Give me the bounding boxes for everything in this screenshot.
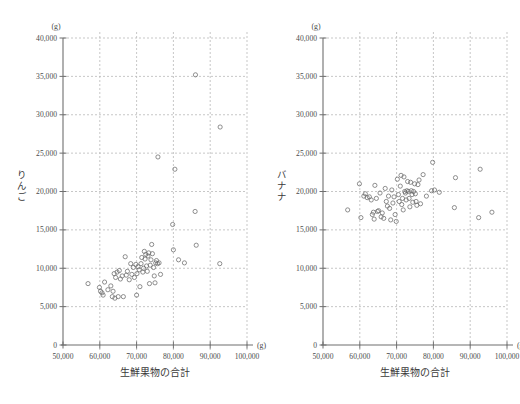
data-points — [86, 73, 222, 301]
data-point — [132, 275, 136, 279]
data-point — [141, 270, 145, 274]
data-point — [408, 205, 412, 209]
x-axis-title: 生鮮果物の合計 — [120, 366, 190, 378]
x-axis-title: 生鮮果物の合計 — [380, 366, 450, 378]
y-tick-label: 30,000 — [296, 110, 317, 119]
data-point — [111, 289, 115, 293]
y-axis-title-char: り — [17, 170, 26, 180]
data-point — [125, 269, 129, 273]
data-point — [408, 180, 412, 184]
data-point — [106, 288, 110, 292]
data-point — [171, 222, 175, 226]
data-point — [383, 186, 387, 190]
data-point — [372, 217, 376, 221]
y-axis-ticks: 05,00010,00015,00020,00025,00030,00035,0… — [36, 34, 66, 350]
x-tick-label: 80,000 — [423, 352, 444, 361]
data-point — [151, 265, 155, 269]
data-point — [373, 183, 377, 187]
y-tick-label: 25,000 — [36, 149, 57, 158]
y-tick-label: 0 — [53, 341, 57, 350]
data-point — [123, 255, 127, 259]
gridlines — [63, 32, 247, 351]
data-point — [477, 216, 481, 220]
data-point — [389, 218, 393, 222]
data-point — [156, 155, 160, 159]
data-point — [109, 284, 113, 288]
y-tick-label: 40,000 — [296, 34, 317, 43]
data-point — [478, 167, 482, 171]
y-tick-label: 35,000 — [296, 72, 317, 81]
data-point — [386, 194, 390, 198]
y-axis-ticks: 05,00010,00015,00020,00025,00030,00035,0… — [296, 34, 326, 350]
data-point — [218, 262, 222, 266]
data-point — [437, 190, 441, 194]
y-tick-label: 5,000 — [40, 302, 57, 311]
chart-panel-apple: 05,00010,00015,00020,00025,00030,00035,0… — [0, 0, 260, 404]
x-tick-label: 60,000 — [349, 352, 370, 361]
data-point — [149, 258, 153, 262]
x-tick-label: 90,000 — [460, 352, 481, 361]
data-point — [114, 275, 118, 279]
data-point — [452, 206, 456, 210]
y-tick-label: 10,000 — [296, 264, 317, 273]
data-point — [129, 262, 133, 266]
data-point — [392, 195, 396, 199]
scatter-plot-apple-svg: 05,00010,00015,00020,00025,00030,00035,0… — [0, 0, 260, 404]
y-axis-title: りんご — [17, 170, 27, 202]
data-point — [194, 243, 198, 247]
y-axis-title-char: ナ — [277, 192, 286, 202]
figure-container: 05,00010,00015,00020,00025,00030,00035,0… — [0, 0, 520, 404]
data-point — [138, 285, 142, 289]
x-tick-label: 80,000 — [163, 352, 184, 361]
y-axis-title-char: ナ — [277, 181, 286, 191]
data-point — [490, 210, 494, 214]
data-point — [86, 282, 90, 286]
data-point — [396, 192, 400, 196]
x-tick-label: 100,000 — [235, 352, 260, 361]
data-point — [153, 281, 157, 285]
data-point — [127, 278, 131, 282]
x-tick-label: 90,000 — [200, 352, 221, 361]
y-axis-unit-label: (g) — [51, 22, 60, 31]
data-point — [121, 295, 125, 299]
y-tick-label: 5,000 — [300, 302, 317, 311]
y-tick-label: 20,000 — [36, 187, 57, 196]
data-point — [418, 202, 422, 206]
data-point — [218, 125, 222, 129]
x-axis-ticks: 50,00060,00070,00080,00090,000100,000 — [313, 342, 520, 361]
data-point — [193, 209, 197, 213]
y-tick-label: 15,000 — [36, 225, 57, 234]
data-point — [380, 211, 384, 215]
data-point — [102, 280, 106, 284]
data-point — [421, 173, 425, 177]
y-axis-title: バナナ — [277, 170, 286, 202]
data-point — [417, 178, 421, 182]
data-point — [395, 177, 399, 181]
data-point — [150, 242, 154, 246]
data-point — [182, 261, 186, 265]
data-point — [158, 272, 162, 276]
data-point — [176, 258, 180, 262]
chart-panel-banana: 05,00010,00015,00020,00025,00030,00035,0… — [260, 0, 520, 404]
y-axis-title-char: バ — [277, 170, 286, 180]
data-point — [384, 199, 388, 203]
data-point — [400, 202, 404, 206]
y-tick-label: 15,000 — [296, 225, 317, 234]
data-point — [391, 201, 395, 205]
y-tick-label: 10,000 — [36, 264, 57, 273]
y-tick-label: 40,000 — [36, 34, 57, 43]
x-tick-label: 60,000 — [89, 352, 110, 361]
data-point — [346, 208, 350, 212]
y-tick-label: 35,000 — [36, 72, 57, 81]
x-tick-label: 50,000 — [53, 352, 74, 361]
y-tick-label: 25,000 — [296, 149, 317, 158]
data-point — [374, 196, 378, 200]
data-point — [453, 176, 457, 180]
y-axis-unit-label: (g) — [311, 22, 320, 31]
y-tick-label: 20,000 — [296, 187, 317, 196]
y-axis-title-char: ご — [17, 191, 27, 202]
y-axis-title-char: ん — [17, 181, 26, 191]
data-point — [401, 208, 405, 212]
x-axis-ticks: 50,00060,00070,00080,00090,000100,000 — [53, 342, 260, 361]
data-point — [393, 212, 397, 216]
